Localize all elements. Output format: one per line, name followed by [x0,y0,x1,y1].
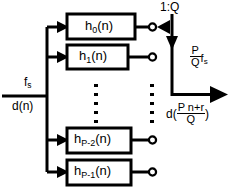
commutator-contact-hPm1 [149,168,156,175]
filter-label-hPm1-sub: P-1 [81,170,95,180]
filter-label-hPm1: hP-1(n) [74,164,111,180]
filter-label-h1-arg: (n) [91,48,107,63]
output-signal-denominator: Q [177,113,205,125]
input-signal-label: d(n) [12,100,33,112]
output-rate-fs: fs [201,52,208,64]
output-signal-label: d( P n+r Q ) [166,102,209,125]
output-rate-fraction: P Q [190,45,201,68]
filter-label-hPm2: hP-2(n) [74,132,111,148]
ellipsis-left-icon [94,84,98,123]
output-signal-suffix: ) [205,108,209,120]
commutator-direction-arrow-icon [166,36,178,50]
output-rate-fs-sub: s [204,57,208,66]
output-signal-prefix: d( [166,108,177,120]
output-rate-denominator: Q [190,56,201,68]
commutator-wiper-icon [157,20,170,34]
output-rate-numerator: P [190,45,201,56]
input-rate-sub: s [27,80,31,90]
filter-label-h0-arg: (n) [97,18,113,33]
output-signal-fraction: P n+r Q [177,102,205,125]
filter-label-h0: h0(n) [85,19,113,35]
ellipsis-right-icon [150,84,154,123]
filter-label-hPm2-sub: P-2 [81,138,95,148]
output-rate-label: P Q fs [190,45,208,68]
filter-label-hPm1-arg: (n) [95,163,111,178]
polyphase-filter-bank-diagram: fs d(n) 1:Q P Q fs d( P n+r Q ) h0(n) h1… [0,0,238,192]
filter-label-h1: h1(n) [79,49,107,65]
commutator-contact-hPm2 [149,136,156,143]
output-signal-numerator: P n+r [177,102,205,113]
diagram-canvas [0,0,238,192]
output-arrow-icon [210,86,228,103]
switch-ratio-label: 1:Q [160,1,179,13]
commutator-contact-h1 [149,53,156,60]
filter-label-hPm2-arg: (n) [95,131,111,146]
commutator-contact-h0 [149,23,156,30]
input-rate-label: fs [24,76,32,90]
